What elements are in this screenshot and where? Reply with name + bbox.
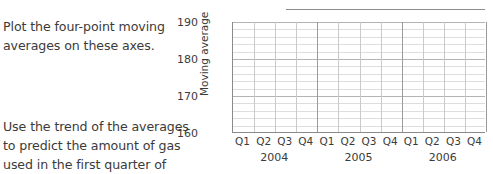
x-tick-label: Q2 — [337, 135, 359, 147]
gridline-major — [233, 59, 485, 60]
x-tick-label: Q3 — [274, 135, 296, 147]
gridline-quarter — [296, 22, 297, 132]
gridline-minor — [233, 89, 485, 90]
gridline-minor — [233, 126, 485, 127]
x-tick-label: Q3 — [442, 135, 464, 147]
year-group-label: 2006 — [420, 151, 466, 164]
gridline-quarter — [275, 22, 276, 132]
gridline-year-boundary — [317, 22, 318, 132]
x-tick-label: Q1 — [232, 135, 254, 147]
gridline-minor — [233, 37, 485, 38]
x-tick-label: Q2 — [421, 135, 443, 147]
gridline-quarter — [254, 22, 255, 132]
y-tick-label: 170 — [158, 90, 198, 103]
year-group-label: 2004 — [251, 151, 297, 164]
horizontal-major-gridlines — [233, 22, 485, 132]
chart-figure: Moving average 160170180190 Q1Q2Q3Q4Q1Q2… — [192, 0, 493, 174]
gridline-major — [233, 96, 485, 97]
x-tick-label: Q4 — [379, 135, 401, 147]
y-tick-label: 160 — [158, 127, 198, 140]
plot-area — [232, 22, 485, 133]
gridline-minor — [233, 66, 485, 67]
instruction-paragraph-1: Plot the four-point moving averages on t… — [3, 17, 165, 55]
gridline-year-boundary — [402, 22, 403, 132]
y-axis-title: Moving average — [198, 20, 210, 96]
horizontal-minor-gridlines — [233, 22, 485, 132]
vertical-gridlines — [233, 22, 485, 132]
gridline-minor — [233, 81, 485, 82]
worksheet-page: Plot the four-point moving averages on t… — [0, 0, 493, 174]
x-tick-label: Q2 — [253, 135, 275, 147]
gridline-year-boundary — [486, 22, 487, 132]
y-tick-label: 180 — [158, 53, 198, 66]
x-tick-label: Q4 — [463, 135, 485, 147]
gridline-quarter — [381, 22, 382, 132]
gridline-minor — [233, 52, 485, 53]
gridline-quarter — [465, 22, 466, 132]
page-separator-rule — [286, 9, 485, 10]
gridline-quarter — [444, 22, 445, 132]
gridline-minor — [233, 74, 485, 75]
gridline-quarter — [360, 22, 361, 132]
gridline-minor — [233, 118, 485, 119]
year-group-label: 2005 — [336, 151, 382, 164]
x-tick-label: Q1 — [400, 135, 422, 147]
gridline-minor — [233, 29, 485, 30]
gridline-minor — [233, 44, 485, 45]
gridline-quarter — [423, 22, 424, 132]
x-tick-label: Q1 — [316, 135, 338, 147]
gridline-major — [233, 22, 485, 23]
gridline-minor — [233, 111, 485, 112]
x-tick-label: Q3 — [358, 135, 380, 147]
gridline-quarter — [338, 22, 339, 132]
x-tick-label: Q4 — [295, 135, 317, 147]
y-tick-label: 190 — [158, 16, 198, 29]
gridline-minor — [233, 103, 485, 104]
